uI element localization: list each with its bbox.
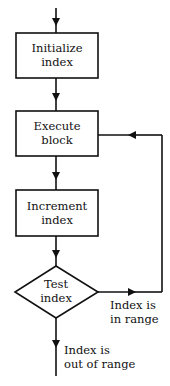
edge-label-line: in range xyxy=(110,312,159,326)
edge-label-line: Index is xyxy=(64,343,135,357)
node-line: index xyxy=(16,55,98,69)
node-line: Increment xyxy=(16,199,98,213)
node-line: Execute xyxy=(16,119,98,133)
node-line: block xyxy=(16,133,98,147)
node-line: Initialize xyxy=(16,41,98,55)
execute-block-label: Execute block xyxy=(16,119,98,147)
edge-label-line: Index is xyxy=(110,298,159,312)
increment-index-label: Increment index xyxy=(16,199,98,227)
test-index-label: Test index xyxy=(16,277,96,305)
node-line: Test xyxy=(16,277,96,291)
out-of-range-label: Index is out of range xyxy=(64,343,135,371)
edge-label-line: out of range xyxy=(64,357,135,371)
in-range-label: Index is in range xyxy=(110,298,159,326)
initialize-index-label: Initialize index xyxy=(16,41,98,69)
node-line: index xyxy=(16,291,96,305)
node-line: index xyxy=(16,213,98,227)
